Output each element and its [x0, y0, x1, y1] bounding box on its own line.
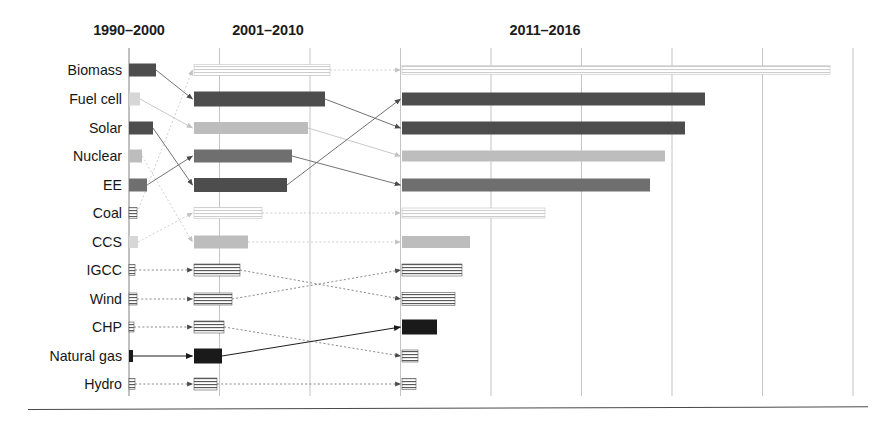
bar-2011-2016-ccs	[402, 236, 470, 248]
row-label-solar: Solar	[89, 120, 122, 136]
bar-2011-2016-fuel-cell	[402, 93, 705, 106]
bar-2001-2010-nuclear	[194, 150, 292, 163]
row-label-natural-gas: Natural gas	[49, 348, 122, 364]
connector-b-solar-to-nuclear	[308, 128, 401, 156]
row-label-coal: Coal	[93, 205, 122, 221]
bar-1990-2000-nuclear	[129, 150, 142, 163]
bar-2001-2010-natural-gas	[194, 349, 222, 364]
bar-2001-2010-igcc	[194, 264, 240, 276]
row-label-biomass: Biomass	[68, 62, 122, 78]
period-header-period-1: 1990–2000	[93, 22, 165, 38]
row-label-ee: EE	[103, 177, 122, 193]
bar-2011-2016-solar	[402, 122, 685, 135]
bar-2011-2016-nuclear	[402, 151, 665, 162]
row-label-igcc: IGCC	[87, 262, 122, 278]
bar-1990-2000-ccs	[129, 236, 138, 248]
connector-a-ee-to-nuclear	[147, 156, 193, 185]
connector-b-nuclear-to-ee	[292, 156, 401, 185]
bar-2001-2010-solar	[194, 122, 308, 134]
bar-2001-2010-biomass	[194, 65, 330, 76]
bar-2001-2010-coal	[194, 208, 262, 219]
bar-2011-2016-natural-gas	[402, 350, 418, 362]
bar-2001-2010-ee	[194, 178, 287, 192]
connector-b-wind-to-igcc	[232, 270, 401, 299]
bar-2001-2010-wind	[194, 293, 232, 305]
connector-arrows-period2-period3	[217, 70, 401, 384]
connector-a-ccs-to-coal	[138, 213, 193, 242]
connector-b-fuel-cell-to-solar	[325, 99, 401, 128]
bar-2011-2016-biomass	[402, 66, 830, 75]
row-label-chp: CHP	[92, 319, 122, 335]
bar-2011-2016-coal	[402, 208, 545, 218]
row-label-column: BiomassFuel cellSolarNuclearEECoalCCSIGC…	[0, 0, 122, 429]
period-header-period-2: 2001–2010	[232, 22, 304, 38]
connector-b-ee-to-fuel-cell	[287, 99, 401, 185]
bar-2001-2010-hydro	[194, 378, 217, 390]
bars-period-2011-2016	[402, 66, 830, 390]
row-label-ccs: CCS	[92, 234, 122, 250]
bar-1990-2000-wind	[129, 293, 137, 305]
connector-a-coal-to-biomass	[137, 70, 193, 213]
bar-1990-2000-coal	[129, 208, 137, 219]
bar-2001-2010-chp	[194, 321, 224, 333]
bar-1990-2000-biomass	[129, 64, 156, 77]
row-label-wind: Wind	[90, 291, 122, 307]
row-label-nuclear: Nuclear	[73, 148, 122, 164]
bars-period-1990-2000	[129, 64, 156, 390]
bar-1990-2000-solar	[129, 122, 153, 135]
period-header-period-3: 2011–2016	[510, 22, 581, 38]
bar-2001-2010-ccs	[194, 236, 248, 249]
bar-2011-2016-wind	[402, 293, 455, 306]
row-label-hydro: Hydro	[84, 376, 122, 392]
bar-1990-2000-fuel-cell	[129, 93, 140, 106]
connector-a-nuclear-to-ccs	[142, 156, 193, 242]
bar-1990-2000-igcc	[129, 265, 135, 276]
connector-arrows-period1-period2	[133, 70, 193, 384]
figure-root: BiomassFuel cellSolarNuclearEECoalCCSIGC…	[0, 0, 887, 429]
bar-1990-2000-chp	[129, 322, 134, 332]
bar-2011-2016-chp	[402, 320, 437, 335]
connector-a-biomass-to-fuel-cell	[156, 70, 193, 99]
chart-canvas	[0, 0, 887, 429]
bar-1990-2000-natural-gas	[129, 350, 133, 362]
bar-1990-2000-ee	[129, 179, 147, 192]
bar-2011-2016-hydro	[402, 379, 416, 390]
connector-b-igcc-to-wind	[240, 270, 401, 299]
row-label-fuel-cell: Fuel cell	[69, 91, 122, 107]
bar-2001-2010-fuel-cell	[194, 92, 325, 107]
bar-1990-2000-hydro	[129, 379, 135, 390]
bar-2011-2016-igcc	[402, 264, 462, 276]
bar-2011-2016-ee	[402, 179, 650, 192]
